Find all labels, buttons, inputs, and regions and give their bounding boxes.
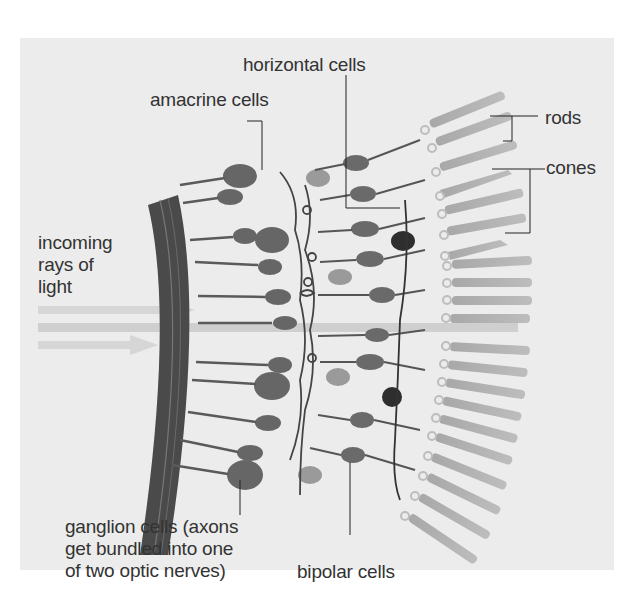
label-rods: rods (545, 107, 581, 129)
label-ganglion-cells: ganglion cells (axons get bundled into o… (65, 516, 238, 582)
label-bipolar-cells: bipolar cells (297, 561, 395, 583)
ganglion-line-2: get bundled into one (65, 538, 238, 560)
label-incoming-light: incoming rays of light (38, 232, 112, 298)
label-cones: cones (546, 157, 596, 179)
amacrine-processes (280, 172, 316, 495)
incoming-light-line-3: light (38, 276, 112, 298)
nerve-fiber-layer (140, 195, 189, 555)
incoming-light-line-2: rays of (38, 254, 112, 276)
ganglion-line-1: ganglion cells (axons (65, 516, 238, 538)
label-horizontal-cells: horizontal cells (243, 54, 365, 76)
label-amacrine-cells: amacrine cells (150, 89, 269, 111)
ganglion-line-3: of two optic nerves) (65, 560, 238, 582)
horizontal-cells (382, 200, 415, 500)
incoming-light-line-1: incoming (38, 232, 112, 254)
bipolar-cells (341, 155, 395, 463)
